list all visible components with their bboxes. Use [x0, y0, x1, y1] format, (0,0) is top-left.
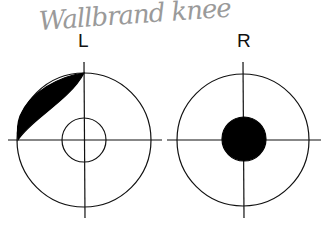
right-filled-circle — [222, 117, 266, 161]
left-shaded-region — [17, 73, 84, 140]
right-knee-diagram — [167, 62, 321, 218]
left-knee-diagram — [8, 62, 162, 218]
left-vertical-axis — [84, 62, 85, 218]
knee-diagrams — [0, 0, 327, 226]
